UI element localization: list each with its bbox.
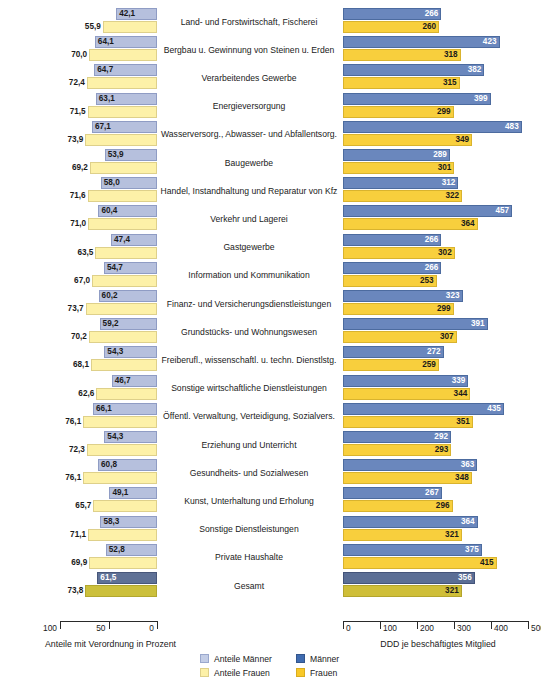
bar-value-label: 307 xyxy=(440,330,454,343)
bar-value-label: 71,5 xyxy=(70,105,86,118)
right-bar-group: 356321 xyxy=(343,569,528,603)
left-bar-male: 54,3 xyxy=(104,346,157,358)
bar-value-label: 363 xyxy=(461,458,475,471)
right-bar-male: 375 xyxy=(343,544,482,556)
bar-value-label: 52,8 xyxy=(109,543,125,556)
bar-rect xyxy=(343,403,504,415)
legend-label-anteile-frauen: Anteile Frauen xyxy=(214,668,270,678)
bar-value-label: 68,1 xyxy=(73,358,89,371)
left-bar-male: 61,5 xyxy=(97,572,157,584)
right-bar-male: 266 xyxy=(343,262,441,274)
bar-rect xyxy=(343,190,462,202)
left-bar-female: 69,9 xyxy=(89,557,157,569)
left-bar-male: 60,2 xyxy=(99,290,157,302)
bar-rect xyxy=(86,303,157,315)
right-bar-female: 321 xyxy=(343,529,462,541)
left-bar-female: 71,5 xyxy=(88,106,157,118)
bar-rect xyxy=(85,134,157,146)
left-bar-male: 63,1 xyxy=(96,93,157,105)
right-bar-female: 364 xyxy=(343,218,478,230)
bar-value-label: 399 xyxy=(474,92,488,105)
bar-rect xyxy=(96,388,157,400)
bar-value-label: 293 xyxy=(435,443,449,456)
right-bar-male: 382 xyxy=(343,64,484,76)
right-bar-male: 364 xyxy=(343,516,478,528)
bar-rect xyxy=(88,218,157,230)
left-bar-female: 71,0 xyxy=(88,218,157,230)
right-bar-female: 318 xyxy=(343,49,461,61)
bar-value-label: 299 xyxy=(437,302,451,315)
category-label: Gesamt xyxy=(160,569,338,603)
bar-rect xyxy=(343,516,478,528)
bar-rect xyxy=(89,557,157,569)
right-bar-female: 415 xyxy=(343,557,497,569)
bar-value-label: 71,0 xyxy=(70,217,86,230)
bar-value-label: 70,2 xyxy=(71,330,87,343)
bar-rect xyxy=(89,49,157,61)
bar-value-label: 364 xyxy=(461,515,475,528)
bar-value-label: 73,7 xyxy=(68,302,84,315)
bar-rect xyxy=(88,106,157,118)
right-bar-female: 260 xyxy=(343,21,439,33)
bar-rect xyxy=(92,275,157,287)
right-bar-male: 272 xyxy=(343,346,444,358)
left-axis-title: Anteile mit Verordnung in Prozent xyxy=(45,639,175,649)
bar-value-label: 46,7 xyxy=(115,374,131,387)
bar-value-label: 49,1 xyxy=(112,486,128,499)
right-axis-title: DDD je beschäftigtes Mitglied xyxy=(348,639,528,649)
bar-value-label: 315 xyxy=(443,76,457,89)
bar-value-label: 260 xyxy=(423,20,437,33)
bar-value-label: 69,9 xyxy=(71,556,87,569)
right-bar-female: 299 xyxy=(343,303,454,315)
bar-value-label: 64,1 xyxy=(98,35,114,48)
bar-value-label: 53,9 xyxy=(108,148,124,161)
left-bar-female: 72,3 xyxy=(87,444,157,456)
bar-value-label: 292 xyxy=(434,430,448,443)
bar-rect xyxy=(343,36,500,48)
bar-value-label: 382 xyxy=(468,63,482,76)
bar-value-label: 54,3 xyxy=(107,345,123,358)
bar-rect xyxy=(343,585,462,597)
left-bar-female: 76,1 xyxy=(83,416,157,428)
bar-value-label: 58,0 xyxy=(104,176,120,189)
legend-item-anteile-frauen: Anteile Frauen xyxy=(200,666,272,679)
right-bar-male: 435 xyxy=(343,403,504,415)
bar-rect xyxy=(90,162,157,174)
bar-value-label: 65,7 xyxy=(75,499,91,512)
bar-value-label: 70,0 xyxy=(71,48,87,61)
bar-rect xyxy=(343,64,484,76)
bar-value-label: 299 xyxy=(437,105,451,118)
bar-value-label: 69,2 xyxy=(72,161,88,174)
bar-rect xyxy=(89,331,157,343)
legend-item-frauen: Frauen xyxy=(296,666,339,679)
bar-value-label: 301 xyxy=(438,161,452,174)
bar-rect xyxy=(87,77,157,89)
left-bar-female: 76,1 xyxy=(83,472,157,484)
bar-value-label: 296 xyxy=(436,499,450,512)
right-bar-female: 344 xyxy=(343,388,470,400)
bar-value-label: 73,8 xyxy=(67,584,83,597)
bar-value-label: 322 xyxy=(445,189,459,202)
bar-value-label: 321 xyxy=(445,528,459,541)
right-bar-male: 312 xyxy=(343,177,458,189)
bar-value-label: 60,8 xyxy=(101,458,117,471)
bar-value-label: 67,0 xyxy=(74,274,90,287)
legend-column-shares: Anteile Männer Anteile Frauen xyxy=(200,652,272,680)
left-bar-male: 58,3 xyxy=(100,516,157,528)
right-bar-female: 296 xyxy=(343,500,453,512)
bar-value-label: 253 xyxy=(420,274,434,287)
left-bar-female: 71,1 xyxy=(88,529,157,541)
right-bar-male: 339 xyxy=(343,375,468,387)
bar-rect xyxy=(343,318,488,330)
bar-rect xyxy=(83,416,157,428)
bar-value-label: 259 xyxy=(422,358,436,371)
bar-rect xyxy=(91,359,157,371)
left-bar-male: 49,1 xyxy=(109,487,157,499)
bar-rect xyxy=(343,557,497,569)
bar-rect xyxy=(343,388,470,400)
left-bar-male: 54,3 xyxy=(104,431,157,443)
right-bar-male: 267 xyxy=(343,487,442,499)
left-bar-male: 60,4 xyxy=(98,205,157,217)
axis-tick xyxy=(157,621,158,629)
bar-value-label: 64,7 xyxy=(97,63,113,76)
